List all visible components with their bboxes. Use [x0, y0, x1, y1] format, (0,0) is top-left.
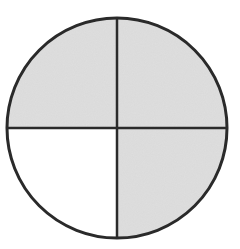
quadrant-top-right: [117, 18, 227, 128]
quadrant-top-left: [7, 18, 117, 128]
quadrant-bottom-right: [117, 128, 227, 238]
quadrant-bottom-left: [7, 128, 117, 238]
fraction-circle-diagram: [0, 0, 240, 249]
